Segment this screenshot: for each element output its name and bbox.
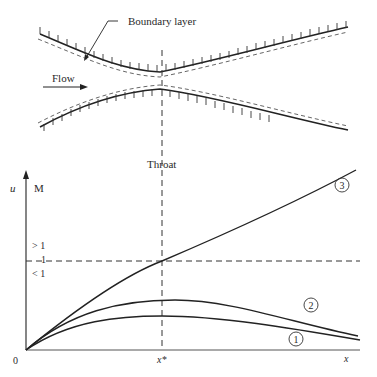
throat-label: Throat bbox=[147, 158, 176, 170]
plot-axes bbox=[23, 170, 360, 350]
origin-label: 0 bbox=[13, 355, 18, 366]
wall-hatching-lower bbox=[44, 89, 269, 131]
curve-1-subsonic bbox=[26, 316, 360, 350]
boundary-layer-label: Boundary layer bbox=[128, 15, 196, 27]
flow-label: Flow bbox=[52, 72, 75, 84]
y-axis-arrow-icon bbox=[23, 170, 29, 179]
curve-3-supersonic bbox=[26, 170, 356, 350]
y-axis-label-u: u bbox=[10, 182, 16, 194]
lower-wall bbox=[38, 85, 348, 131]
upper-wall bbox=[38, 21, 348, 77]
converging-diverging-nozzle-diagram: Boundary layer Flow Throat u M 0 x x* > … bbox=[0, 0, 377, 377]
svg-text:3: 3 bbox=[340, 180, 345, 191]
svg-text:1: 1 bbox=[294, 334, 299, 345]
x-axis-label: x bbox=[343, 353, 349, 364]
boundary-layer-callout: Boundary layer bbox=[84, 15, 196, 61]
mach-gt-one-label: > 1 bbox=[32, 240, 45, 251]
mach-lt-one-label: < 1 bbox=[32, 268, 45, 279]
svg-text:2: 2 bbox=[309, 300, 314, 311]
curve-label-3: 3 bbox=[335, 178, 349, 192]
curve-label-2: 2 bbox=[304, 298, 318, 312]
wall-hatching-upper bbox=[40, 21, 346, 72]
flow-arrow: Flow bbox=[43, 72, 88, 90]
y-axis-label-m: M bbox=[34, 182, 44, 194]
mach-eq-one-label: 1 bbox=[41, 254, 46, 265]
arrow-head-icon bbox=[80, 84, 88, 90]
curve-label-1: 1 bbox=[289, 332, 303, 346]
throat-x-label: x* bbox=[156, 354, 166, 365]
